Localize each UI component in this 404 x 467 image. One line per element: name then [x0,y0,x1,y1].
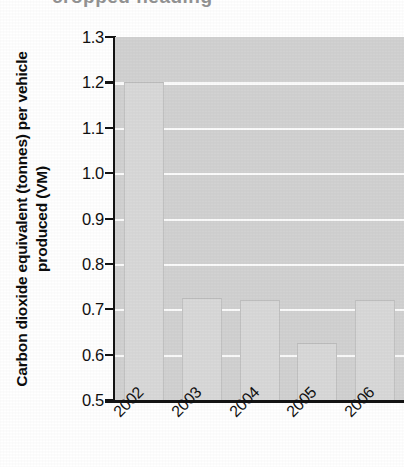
y-axis-tick-labels: 1.31.21.11.00.90.80.70.60.5 [62,0,110,467]
bar-2003 [182,298,222,400]
bar-2004 [240,300,280,400]
y-tick-label: 0.8 [82,254,104,273]
y-tick-label: 0.7 [82,300,104,319]
bar-2002 [124,82,164,400]
y-axis-title: Carbon dioxide equivalent (tonnes) per v… [0,24,64,414]
y-tick-label: 1.3 [82,28,104,47]
y-tick-label: 1.2 [82,73,104,92]
plot-area [115,37,404,400]
bar-2006 [355,300,395,400]
y-tick-label: 0.9 [82,209,104,228]
x-axis-tick-labels: 20022003200420052006 [0,400,404,467]
y-tick-label: 1.0 [82,164,104,183]
y-tick-label: 1.1 [82,118,104,137]
y-tick-label: 0.6 [82,345,104,364]
y-axis-title-label: Carbon dioxide equivalent (tonnes) per v… [12,34,52,404]
cropped-title-sliver: cropped heading [0,0,404,9]
